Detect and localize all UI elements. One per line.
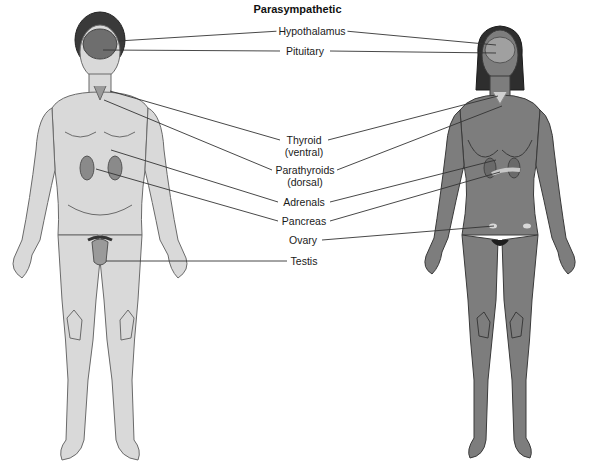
- label-thyroid: Thyroid (ventral): [283, 134, 326, 158]
- label-parathyroids-sub: (dorsal): [276, 176, 335, 188]
- label-testis: Testis: [289, 255, 320, 267]
- male-kidney-right: [108, 156, 122, 180]
- male-testis: [92, 239, 108, 265]
- endocrine-diagram: Parasympathetic Hypothalamus Pituitary T…: [0, 0, 595, 464]
- female-brain: [485, 37, 515, 63]
- label-thyroid-sub: (ventral): [285, 146, 324, 158]
- label-hypothalamus: Hypothalamus: [276, 25, 347, 37]
- diagram-title: Parasympathetic: [0, 3, 595, 15]
- label-parathyroids: Parathyroids (dorsal): [274, 164, 337, 188]
- label-pituitary: Pituitary: [284, 45, 326, 57]
- label-ovary: Ovary: [287, 234, 319, 246]
- label-parathyroids-main: Parathyroids: [276, 164, 335, 176]
- male-brain: [83, 29, 117, 59]
- body-figures: [0, 0, 595, 464]
- male-kidney-left: [80, 156, 94, 180]
- female-ovary-right: [523, 224, 531, 229]
- label-pancreas: Pancreas: [280, 215, 328, 227]
- label-thyroid-main: Thyroid: [285, 134, 324, 146]
- label-adrenals: Adrenals: [281, 196, 326, 208]
